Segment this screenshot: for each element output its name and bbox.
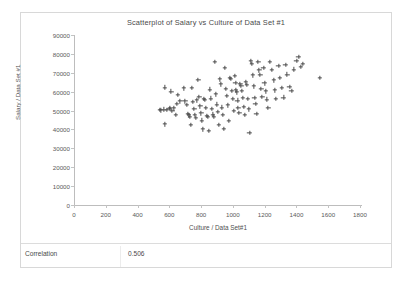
scatter-point xyxy=(238,82,242,86)
scatter-point xyxy=(227,119,231,123)
correlation-row: Correlation 0.506 xyxy=(20,246,392,267)
y-tick-label: 10000 xyxy=(30,183,70,190)
scatter-point xyxy=(245,82,249,86)
scatter-point xyxy=(228,75,232,79)
scatter-point xyxy=(159,108,163,112)
x-tick-mark xyxy=(169,205,170,208)
scatter-point xyxy=(233,74,237,78)
scatter-point xyxy=(215,102,219,106)
scatter-point xyxy=(162,85,166,89)
y-tick-label: 40000 xyxy=(30,126,70,133)
scatter-point xyxy=(178,99,182,103)
scatter-point xyxy=(183,99,187,103)
scatter-point xyxy=(244,80,248,84)
scatter-point xyxy=(200,118,204,122)
scatter-point xyxy=(276,64,280,68)
correlation-value: 0.506 xyxy=(128,250,145,257)
scatter-point xyxy=(175,102,179,106)
x-tick-label: 1800 xyxy=(353,211,367,218)
y-tick-label: 30000 xyxy=(30,145,70,152)
scatter-point xyxy=(226,103,230,107)
scatter-point xyxy=(248,59,252,63)
scatter-point xyxy=(195,98,199,102)
scatter-point xyxy=(253,102,257,106)
scatter-point xyxy=(241,96,245,100)
scatter-point xyxy=(199,111,203,115)
scatter-point xyxy=(190,85,194,89)
x-tick-label: 600 xyxy=(164,211,174,218)
scatter-point xyxy=(239,83,243,87)
scatter-point xyxy=(298,64,302,68)
x-tick-mark xyxy=(106,205,107,208)
chart-title: Scatterplot of Salary vs Culture of Data… xyxy=(20,18,392,27)
scatter-point xyxy=(158,107,162,111)
scatter-point xyxy=(247,131,251,135)
y-tick-label: 90000 xyxy=(30,32,70,39)
y-tick-label: 70000 xyxy=(30,69,70,76)
y-tick-label: 20000 xyxy=(30,164,70,171)
scatter-point xyxy=(289,88,293,92)
scatter-point xyxy=(213,59,217,63)
scatter-point xyxy=(251,84,255,88)
scatter-point xyxy=(187,114,191,118)
scatterplot-screenshot: Scatterplot of Salary vs Culture of Data… xyxy=(0,0,404,287)
x-tick-mark xyxy=(138,205,139,208)
scatter-point xyxy=(235,98,239,102)
scatter-point xyxy=(216,110,220,114)
scatter-point xyxy=(167,107,171,111)
scatter-point xyxy=(197,95,201,99)
scatter-point xyxy=(217,122,221,126)
scatter-point xyxy=(176,93,180,97)
scatter-point xyxy=(263,89,267,93)
x-tick-label: 1400 xyxy=(290,211,304,218)
x-tick-mark xyxy=(296,205,297,208)
scatter-point xyxy=(252,96,256,100)
scatter-point xyxy=(187,113,191,117)
scatter-point xyxy=(221,126,225,130)
scatter-point xyxy=(246,96,250,100)
scatter-point xyxy=(223,66,227,70)
y-axis-title: Salary / Data Set #1 xyxy=(14,65,21,120)
x-tick-mark xyxy=(265,205,266,208)
plot-area xyxy=(74,35,360,205)
scatter-point xyxy=(240,89,244,93)
scatter-point xyxy=(185,103,189,107)
scatter-point xyxy=(207,128,211,132)
scatter-point xyxy=(214,92,218,96)
scatter-point xyxy=(165,108,169,112)
scatter-point xyxy=(258,73,262,77)
scatter-point xyxy=(317,76,321,80)
x-tick-label: 1000 xyxy=(226,211,240,218)
scatter-point xyxy=(236,106,240,110)
x-tick-label: 0 xyxy=(72,211,75,218)
y-tick-label: 0 xyxy=(30,202,70,209)
x-tick-mark xyxy=(74,205,75,208)
scatter-point xyxy=(204,105,208,109)
scatter-point xyxy=(268,59,272,63)
footer-separator xyxy=(21,243,391,244)
scatter-point xyxy=(210,107,214,111)
scatter-point xyxy=(294,59,298,63)
x-tick-mark xyxy=(201,205,202,208)
x-tick-mark xyxy=(360,205,361,208)
scatter-point xyxy=(274,97,278,101)
scatter-point xyxy=(260,94,264,98)
scatter-point xyxy=(209,96,213,100)
scatter-point xyxy=(230,89,234,93)
scatter-point xyxy=(181,86,185,90)
scatter-point xyxy=(247,107,251,111)
chart-card: Scatterplot of Salary vs Culture of Data… xyxy=(20,12,392,240)
x-tick-label: 200 xyxy=(101,211,111,218)
scatter-point xyxy=(162,107,166,111)
scatter-point xyxy=(201,127,205,131)
correlation-label: Correlation xyxy=(25,250,57,257)
scatter-point xyxy=(169,89,173,93)
scatter-point xyxy=(250,73,254,77)
scatter-point xyxy=(233,81,237,85)
x-tick-mark xyxy=(328,205,329,208)
y-tick-label: 60000 xyxy=(30,88,70,95)
scatter-point xyxy=(291,67,295,71)
scatter-point xyxy=(285,72,289,76)
scatter-point xyxy=(261,66,265,70)
x-tick-label: 800 xyxy=(196,211,206,218)
